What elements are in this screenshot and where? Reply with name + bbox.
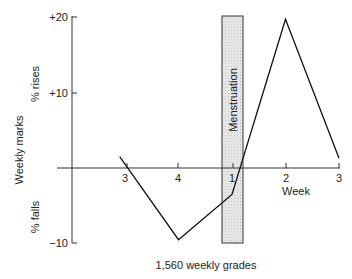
x-tick-labels: 3 4 1 2 3 bbox=[122, 172, 342, 184]
x-axis-title: Week bbox=[282, 185, 310, 197]
y-axis-upper-label: % rises bbox=[29, 65, 41, 102]
y-tick-labels: +20 +10 −10 bbox=[49, 11, 68, 249]
menstruation-band: Menstruation bbox=[222, 16, 243, 243]
chart-caption: 1,560 weekly grades bbox=[156, 259, 257, 271]
x-tick-label: 4 bbox=[175, 172, 181, 184]
x-tick-label: 2 bbox=[283, 172, 289, 184]
menstruation-label: Menstruation bbox=[227, 68, 239, 132]
y-tick-label: −10 bbox=[49, 237, 68, 249]
x-tick-label: 3 bbox=[122, 172, 128, 184]
y-tick-label: +10 bbox=[49, 87, 68, 99]
y-axis-title: Weekly marks bbox=[13, 115, 25, 184]
chart-canvas: Menstruation +20 +10 −10 3 4 1 2 3 Week … bbox=[0, 0, 352, 279]
x-tick-label: 1 bbox=[229, 172, 235, 184]
x-tick-label: 3 bbox=[336, 172, 342, 184]
y-axis-lower-label: % falls bbox=[29, 200, 41, 233]
y-tick-label: +20 bbox=[49, 11, 68, 23]
